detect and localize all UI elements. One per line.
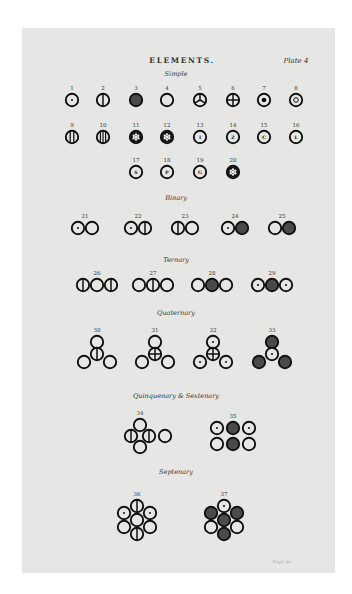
element-number: 5	[198, 85, 202, 91]
element-number: 1	[70, 85, 74, 91]
atom-plain-icon	[186, 222, 198, 234]
element-number: 12	[164, 122, 171, 128]
element-number: 35	[230, 413, 237, 419]
element-number: 2	[101, 85, 105, 91]
atom-plain-icon	[161, 94, 173, 106]
atom-filled-icon	[266, 279, 278, 291]
atom-plain-icon	[134, 419, 146, 431]
atom-letter-icon: Z	[227, 131, 239, 143]
atom-filled-icon	[227, 422, 239, 434]
atom-dot-icon	[220, 356, 232, 368]
engraver-signature: Engd. &c	[272, 559, 293, 564]
atom-plain-icon	[104, 356, 116, 368]
section-label-septenary: Septenary	[159, 468, 193, 476]
atom-filled-icon	[283, 222, 295, 234]
atom-vline-icon	[91, 348, 103, 360]
atom-letter: I	[199, 135, 201, 140]
atom-filled-icon	[218, 528, 230, 540]
atom-letter-icon: S	[130, 166, 142, 178]
atom-plain-icon	[192, 279, 204, 291]
atom-star-icon	[130, 131, 142, 143]
atom-dot-icon	[194, 356, 206, 368]
atom-plain-icon	[243, 438, 255, 450]
element-symbol-32: 32	[194, 327, 232, 368]
atom-plain-icon	[162, 356, 174, 368]
section-label-simple: Simple	[165, 70, 188, 78]
section-label-binary: Binary	[164, 194, 187, 202]
element-number: 32	[210, 327, 217, 333]
atom-dot-icon	[266, 348, 278, 360]
element-symbol-17: 17S	[130, 157, 142, 178]
atom-plain-icon	[133, 279, 145, 291]
element-symbol-26: 26	[77, 270, 117, 291]
element-number: 27	[150, 270, 157, 276]
atom-vline-icon	[97, 94, 109, 106]
element-table-diagram: ELEMENTS. Plate 4 SimpleBinaryTernaryQua…	[0, 0, 352, 594]
element-symbol-31: 31	[136, 327, 174, 368]
atom-vline-icon	[143, 430, 155, 442]
element-number: 10	[100, 122, 107, 128]
element-number: 15	[261, 122, 268, 128]
element-symbol-16: 16L	[290, 122, 302, 143]
element-number: 37	[221, 491, 228, 497]
element-symbol-8: 8	[290, 85, 302, 106]
atom-letter-icon: C	[258, 131, 270, 143]
element-number: 30	[94, 327, 101, 333]
element-symbol-30: 30	[78, 327, 116, 368]
element-number: 26	[94, 270, 101, 276]
element-number: 34	[137, 410, 144, 416]
element-symbol-1: 1	[66, 85, 78, 106]
atom-dot-icon	[252, 279, 264, 291]
element-symbol-13: 13I	[194, 122, 206, 143]
element-symbol-22: 22	[125, 213, 151, 234]
element-number: 8	[294, 85, 298, 91]
element-symbol-34: 34	[125, 410, 171, 453]
element-number: 23	[182, 213, 189, 219]
atom-cross-icon	[207, 348, 219, 360]
atom-vline-icon	[139, 222, 151, 234]
plate-number: Plate 4	[283, 57, 309, 65]
atom-dot-icon	[66, 94, 78, 106]
element-symbol-29: 29	[252, 270, 292, 291]
atom-vline-icon	[77, 279, 89, 291]
section-label-ternary: Ternary	[163, 256, 189, 264]
section-label-quaternary: Quaternary	[157, 309, 195, 317]
atom-filled-icon	[218, 514, 230, 526]
atom-filled-icon	[279, 356, 291, 368]
atom-dot-icon	[125, 222, 137, 234]
element-symbol-33: 33	[253, 327, 291, 368]
atom-letter-icon: I	[194, 131, 206, 143]
element-symbol-15: 15C	[258, 122, 270, 143]
atom-vline2-icon	[66, 131, 78, 143]
element-number: 14	[230, 122, 237, 128]
atom-filled-icon	[253, 356, 265, 368]
element-symbol-12: 12	[161, 122, 173, 143]
atom-letter: G	[198, 170, 202, 175]
element-symbol-18: 18P	[161, 157, 173, 178]
element-number: 19	[197, 157, 204, 163]
element-symbol-9: 9	[66, 122, 78, 143]
element-symbol-37: 37	[205, 491, 243, 540]
atom-star-icon	[227, 166, 239, 178]
atom-plain-icon	[211, 438, 223, 450]
element-number: 16	[293, 122, 300, 128]
element-number: 36	[134, 491, 141, 497]
atom-letter: C	[262, 135, 266, 140]
element-symbol-3: 3	[130, 85, 142, 106]
atom-plain-icon	[78, 356, 90, 368]
atom-star-icon	[161, 131, 173, 143]
atom-filled-icon	[206, 279, 218, 291]
element-number: 29	[269, 270, 276, 276]
section-label-quinquenary-sextenary: Quinquenary & Sextenary	[133, 392, 219, 400]
atom-vline-icon	[105, 279, 117, 291]
atom-dot-icon	[118, 507, 130, 519]
atom-plain-icon	[269, 222, 281, 234]
element-number: 20	[230, 157, 237, 163]
element-symbol-25: 25	[269, 213, 295, 234]
element-number: 3	[134, 85, 138, 91]
element-symbol-19: 19G	[194, 157, 206, 178]
atom-plain-icon	[205, 521, 217, 533]
atom-ring-icon	[290, 94, 302, 106]
atom-letter-icon: G	[194, 166, 206, 178]
element-number: 21	[82, 213, 89, 219]
